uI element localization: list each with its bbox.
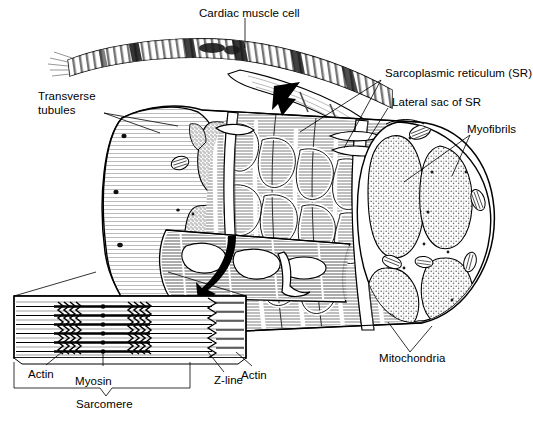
label-transverse-tubules-line2: tubules [38,104,75,118]
label-sarcomere: Sarcomere [76,398,133,412]
cardiac-muscle-cell-figure: Cardiac muscle cell Sarcoplasmic reticul… [0,0,533,429]
arrow-to-cell [272,82,300,116]
label-lateral-sac-of-sr: Lateral sac of SR [392,96,481,110]
diagram-canvas [0,0,533,429]
label-myofibrils: Myofibrils [467,123,516,137]
label-transverse-tubules-line1: Transverse [38,90,96,104]
label-z-line: Z-line [214,374,243,388]
label-actin-left: Actin [28,368,54,382]
label-myosin: Myosin [75,375,112,389]
label-sarcoplasmic-reticulum: Sarcoplasmic reticulum (SR) [385,67,532,81]
label-cardiac-muscle-cell: Cardiac muscle cell [199,7,300,21]
label-mitochondria: Mitochondria [379,352,445,366]
label-actin-right: Actin [241,369,267,383]
sarcomere-inset [14,296,246,364]
